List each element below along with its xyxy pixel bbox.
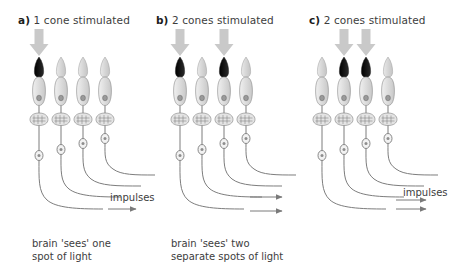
cone-cell-4 [237,57,255,126]
cone-cell-1 [171,57,189,126]
bipolar-cell-bodies [35,134,109,161]
panel-b-caption: brain 'sees' two separate spots of light [171,238,283,263]
cone-cell-3 [74,57,92,126]
light-arrow-3 [215,29,234,56]
panel-a: a) 1 cone stimulated [0,0,150,277]
cone-cell-2 [52,57,70,126]
cone-cell-2 [193,57,211,126]
panel-b-artwork [150,0,297,277]
bipolar-neuron-group [180,126,296,210]
cone-cell-3 [215,57,233,126]
panel-a-artwork [0,0,150,277]
impulses-label-a: impulses [110,192,155,203]
light-arrow-3 [357,29,376,56]
cone-cell-4 [96,57,114,126]
cone-cell-1 [30,57,48,126]
cone-cell-2 [335,57,353,126]
light-arrow-1 [30,29,49,56]
panel-a-caption: brain 'sees' one spot of light [32,238,111,263]
cone-cell-3 [357,57,375,126]
cone-cell-4 [379,57,397,126]
light-arrow-2 [335,29,354,56]
light-arrow-1 [171,29,190,56]
panel-c-artwork [297,0,449,277]
bipolar-cell-bodies [318,134,392,161]
panel-b: b) 2 cones stimulated [150,0,297,277]
bipolar-neuron-group [322,126,438,210]
bipolar-cell-bodies [176,134,250,161]
cone-cell-1 [313,57,331,126]
panel-c: c) 2 cones stimulated [297,0,449,277]
